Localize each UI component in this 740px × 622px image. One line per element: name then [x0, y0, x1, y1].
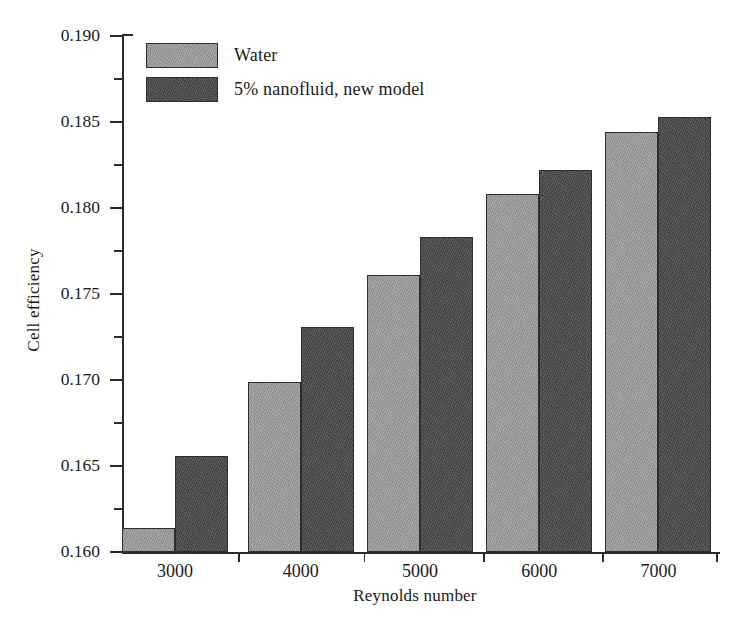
legend-label-water: Water: [234, 45, 278, 66]
bar-6000-water: [486, 194, 539, 552]
legend-label-nanofluid: 5% nanofluid, new model: [234, 79, 425, 100]
x-tick-label: 3000: [115, 561, 235, 582]
x-tick-label: 6000: [479, 561, 599, 582]
y-tick-label: 0.190: [18, 27, 110, 45]
x-axis-line: [122, 552, 720, 554]
y-tick-label: 0.170: [18, 371, 110, 389]
y-tick-label: 0.185: [18, 113, 110, 131]
bar-3000-water: [122, 528, 175, 552]
bar-5000-nanofluid: [420, 237, 473, 552]
bar-7000-nanofluid: [658, 117, 711, 552]
legend-item-nanofluid: 5% nanofluid, new model: [146, 72, 425, 106]
bar-6000-nanofluid: [539, 170, 592, 552]
y-tick-label: 0.175: [18, 285, 110, 303]
bar-4000-water: [248, 382, 301, 552]
y-tick-label: 0.160: [18, 543, 110, 561]
bar-7000-water: [605, 132, 658, 552]
x-tick: [238, 553, 240, 562]
x-tick-label: 4000: [241, 561, 361, 582]
bar-chart-figure: Cell efficiency Reynolds number 0.1600.1…: [0, 0, 740, 622]
bar-3000-nanofluid: [175, 456, 228, 552]
plot-area: [122, 36, 718, 552]
y-tick-label: 0.180: [18, 199, 110, 217]
chart-legend: Water 5% nanofluid, new model: [146, 38, 425, 106]
x-tick-label: 7000: [598, 561, 718, 582]
bar-5000-water: [367, 275, 420, 552]
legend-swatch-water: [146, 43, 218, 68]
bar-4000-nanofluid: [301, 327, 354, 552]
legend-item-water: Water: [146, 38, 425, 72]
y-tick-label: 0.165: [18, 457, 110, 475]
x-axis-title: Reynolds number: [110, 586, 720, 606]
x-tick-label: 5000: [360, 561, 480, 582]
legend-swatch-nanofluid: [146, 77, 218, 102]
